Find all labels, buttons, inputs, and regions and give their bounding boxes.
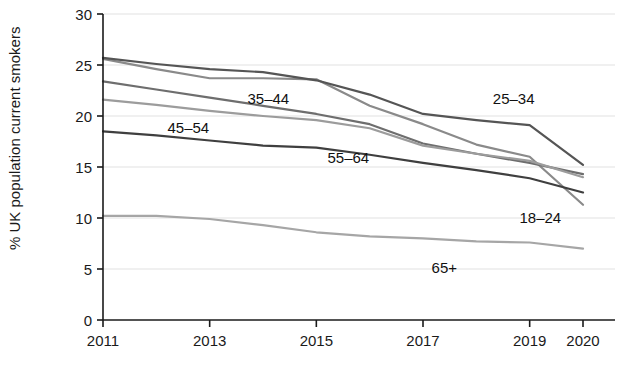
series-label-3544: 35–44 bbox=[247, 90, 289, 107]
y-tick-label-15: 15 bbox=[75, 159, 92, 176]
series-label-4554: 45–54 bbox=[167, 119, 209, 136]
chart-figure: 051015202530 201120132015201720192020 18… bbox=[0, 0, 620, 367]
x-tick-label-2015: 2015 bbox=[300, 332, 333, 349]
y-tick-label-30: 30 bbox=[75, 6, 92, 23]
y-tick-label-25: 25 bbox=[75, 57, 92, 74]
y-tick-label-10: 10 bbox=[75, 210, 92, 227]
series-label-2534: 25–34 bbox=[493, 90, 535, 107]
series-annotations: 18–2425–3435–4445–5455–6465+ bbox=[167, 90, 561, 276]
x-axis: 201120132015201720192020 bbox=[87, 320, 615, 349]
gridlines bbox=[103, 14, 615, 269]
series-label-5564: 55–64 bbox=[327, 149, 369, 166]
x-tick-label-2013: 2013 bbox=[193, 332, 226, 349]
line-chart-canvas: 051015202530 201120132015201720192020 18… bbox=[0, 0, 620, 367]
series-label-65+: 65+ bbox=[432, 259, 458, 276]
y-tick-label-5: 5 bbox=[84, 261, 92, 278]
y-axis: 051015202530 bbox=[75, 6, 103, 329]
y-tick-label-20: 20 bbox=[75, 108, 92, 125]
x-tick-label-2017: 2017 bbox=[406, 332, 439, 349]
y-axis-title: % UK population current smokers bbox=[6, 27, 23, 250]
series-line-65+ bbox=[103, 216, 583, 249]
x-tick-label-2020: 2020 bbox=[566, 332, 599, 349]
x-tick-label-2011: 2011 bbox=[87, 332, 119, 349]
x-tick-label-2019: 2019 bbox=[513, 332, 546, 349]
y-tick-label-0: 0 bbox=[84, 312, 92, 329]
series-label-1824: 18–24 bbox=[519, 209, 561, 226]
